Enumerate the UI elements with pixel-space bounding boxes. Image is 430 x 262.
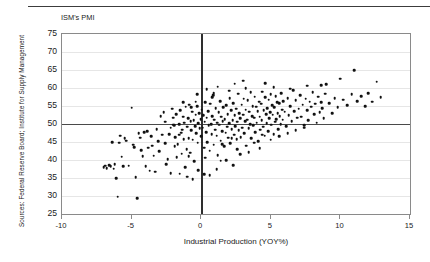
scatter-point [187,137,190,140]
scatter-point [153,154,156,157]
scatter-point [144,165,147,168]
scatter-point [176,156,179,159]
scatter-point [228,122,231,125]
scatter-point [243,132,246,135]
scatter-point [255,105,258,108]
scatter-point [182,116,185,119]
scatter-point [272,133,275,136]
scatter-point [246,118,249,121]
scatter-point [264,96,267,99]
scatter-point [256,121,259,124]
scatter-point [254,131,257,134]
scatter-point [279,123,282,126]
scatter-point [342,98,345,101]
scatter-point [203,146,206,149]
scatter-point [260,119,263,122]
scatter-point [286,132,289,135]
scatter-point [220,116,223,119]
scatter-point [232,164,235,167]
scatter-point [196,93,199,96]
scatter-point [205,88,208,91]
y-axis-tick-label: 60 [31,82,57,92]
gridline-y [62,70,410,71]
scatter-point [261,134,264,137]
scatter-point [179,109,182,112]
scatter-point [221,130,224,133]
scatter-point [190,129,193,132]
x-axis-tick-mark [409,215,410,219]
scatter-point [205,131,208,134]
scatter-point [258,116,261,119]
scatter-point [274,121,277,124]
scatter-point [226,126,229,129]
scatter-point [240,136,243,139]
scatter-point [320,101,323,104]
scatter-point [375,80,378,83]
scatter-point [197,169,200,172]
scatter-point [234,125,237,128]
scatter-point [306,109,309,112]
scatter-point [262,126,265,129]
x-axis-tick-mark [339,215,340,219]
scatter-point [196,141,199,144]
scatter-point [185,105,188,108]
scatter-point [194,100,197,103]
scatter-point [324,92,327,95]
scatter-point [186,126,189,129]
scatter-point [285,125,288,128]
scatter-point [292,89,295,92]
scatter-point [221,143,224,146]
scatter-point [215,168,218,171]
scatter-point [293,110,296,113]
scatter-point [111,141,114,144]
scatter-point [321,107,324,110]
scatter-point [279,115,282,118]
scatter-point [256,110,259,113]
scatter-point [328,102,331,105]
x-axis-tick-label: -5 [116,221,146,230]
scatter-point [226,113,229,116]
gridline-y [62,142,410,143]
scatter-point [240,103,243,106]
scatter-point [195,132,198,135]
scatter-point [307,119,310,122]
scatter-point [272,86,275,89]
x-axis-tick-label: 0 [185,221,215,230]
scatter-point [260,103,263,106]
scatter-point [206,141,209,144]
x-axis-tick-label: 10 [324,221,354,230]
scatter-point [161,134,164,137]
scatter-point [308,100,311,103]
scatter-point [198,112,201,115]
scatter-point [141,155,144,158]
scatter-point [192,178,195,181]
scatter-point [241,126,244,129]
scatter-point [160,115,163,118]
y-axis-tick-label: 55 [31,100,57,110]
x-axis-tick-label: 15 [394,221,424,230]
scatter-point [281,118,284,121]
scatter-point [139,136,142,139]
y-axis-tick-label: 30 [31,190,57,200]
y-axis-tick-label: 70 [31,46,57,56]
scatter-point [204,101,207,104]
x-axis-tick-mark [131,215,132,219]
scatter-point [208,149,211,152]
scatter-point [225,104,228,107]
scatter-point [236,148,239,151]
scatter-point [322,117,325,120]
scatter-point [278,135,281,138]
scatter-point [230,109,233,112]
scatter-point [244,87,247,90]
scatter-point [185,148,188,151]
source-note: Sources: Federal Reserve Board; Institut… [14,0,28,262]
scatter-point [210,133,213,136]
plot-area [61,33,411,215]
scatter-point [121,155,124,158]
scatter-point [192,139,195,142]
scatter-point [270,93,273,96]
scatter-point [169,172,172,175]
scatter-point [183,121,186,124]
scatter-point [233,134,236,137]
scatter-point [219,100,222,103]
